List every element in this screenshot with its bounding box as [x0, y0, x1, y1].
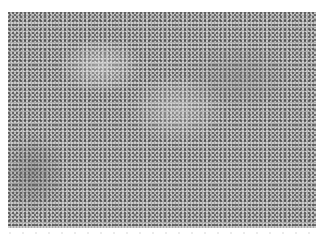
scan-artifact	[8, 230, 316, 236]
micrograph-image	[8, 12, 316, 228]
